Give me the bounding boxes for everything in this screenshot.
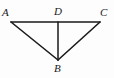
vertex-label-c: C	[100, 7, 107, 18]
geometry-figure: A D C B	[0, 0, 114, 78]
vertex-label-a: A	[2, 7, 9, 18]
vertex-label-b: B	[54, 63, 61, 74]
vertex-label-d: D	[54, 6, 62, 17]
segment-cb	[58, 22, 100, 60]
segment-ab	[11, 22, 58, 60]
